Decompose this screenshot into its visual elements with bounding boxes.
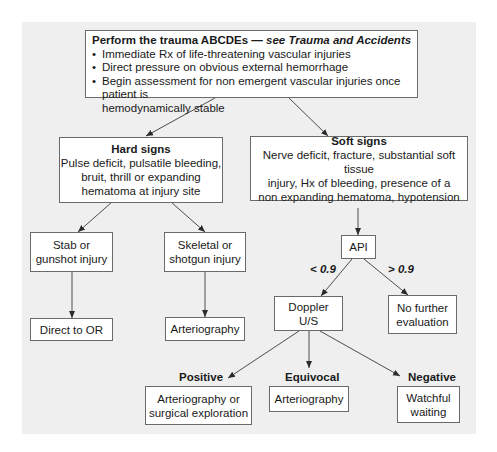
bullet-continuation: hemodynamically stable xyxy=(102,102,413,116)
negative-label: Negative xyxy=(408,371,456,383)
skeletal-line: shotgun injury xyxy=(169,252,241,266)
arteriography-text: Arteriography xyxy=(170,322,239,336)
stab-line: gunshot injury xyxy=(36,252,108,266)
stab-gunshot-box: Stab or gunshot injury xyxy=(30,232,113,272)
no-further-line: evaluation xyxy=(396,315,448,329)
hard-signs-title: Hard signs xyxy=(111,142,170,156)
arrow-doppler-to-negative xyxy=(320,331,400,376)
positive-label: Positive xyxy=(179,371,223,383)
doppler-line: U/S xyxy=(299,314,318,328)
bullet-item: Begin assessment for non emergent vascul… xyxy=(92,75,413,116)
api-box: API xyxy=(341,235,376,259)
hard-signs-line: bruit, thrill or expanding xyxy=(81,170,201,184)
soft-signs-line: Nerve deficit, fracture, substantial sof… xyxy=(251,148,467,176)
bullet-item: Direct pressure on obvious external hemo… xyxy=(92,61,413,75)
top-title-text: Perform the trauma ABCDEs — xyxy=(92,34,266,46)
equivocal-label: Equivocal xyxy=(285,371,339,383)
stab-line: Stab or xyxy=(53,238,90,252)
skeletal-line: Skeletal or xyxy=(178,238,232,252)
equivocal-result-text: Arteriography xyxy=(274,392,343,406)
doppler-line: Doppler xyxy=(288,300,328,314)
api-low-label: < 0.9 xyxy=(310,263,336,275)
soft-signs-line: injury, Hx of bleeding, presence of a xyxy=(268,176,451,190)
positive-result-line: surgical exploration xyxy=(149,406,248,420)
api-text: API xyxy=(349,240,368,254)
hard-signs-line: Pulse deficit, pulsatile bleeding, xyxy=(61,156,221,170)
hard-signs-box: Hard signs Pulse deficit, pulsatile blee… xyxy=(59,137,223,203)
direct-to-or-text: Direct to OR xyxy=(40,323,103,337)
no-further-line: No further xyxy=(397,301,448,315)
skeletal-shotgun-box: Skeletal or shotgun injury xyxy=(164,232,246,272)
arteriography-box-hard: Arteriography xyxy=(165,317,245,341)
arrow-hard-to-skeletal xyxy=(171,202,205,232)
top-bullet-list: Immediate Rx of life-threatening vascula… xyxy=(92,48,413,116)
positive-result-line: Arteriography or xyxy=(157,392,239,406)
no-further-evaluation-box: No further evaluation xyxy=(388,295,457,334)
direct-to-or-box: Direct to OR xyxy=(30,318,113,341)
doppler-us-box: Doppler U/S xyxy=(274,296,343,331)
bullet-text: Begin assessment for non emergent vascul… xyxy=(102,75,401,101)
top-title: Perform the trauma ABCDEs — see Trauma a… xyxy=(92,34,413,48)
top-instructions-box: Perform the trauma ABCDEs — see Trauma a… xyxy=(85,30,418,98)
arrow-hard-to-stab xyxy=(78,202,112,232)
positive-result-box: Arteriography or surgical exploration xyxy=(145,386,252,425)
soft-signs-line: non expanding hematoma, hypotension xyxy=(258,190,459,204)
negative-result-line: waiting xyxy=(411,405,447,419)
top-title-reference: see Trauma and Accidents xyxy=(266,34,411,46)
hard-signs-line: hematoma at injury site xyxy=(82,184,201,198)
negative-result-box: Watchful waiting xyxy=(397,386,460,423)
soft-signs-box: Soft signs Nerve deficit, fracture, subs… xyxy=(250,136,468,201)
negative-result-line: Watchful xyxy=(406,391,450,405)
equivocal-result-box: Arteriography xyxy=(269,386,349,412)
api-high-label: > 0.9 xyxy=(388,263,414,275)
soft-signs-title: Soft signs xyxy=(331,134,387,148)
bullet-item: Immediate Rx of life-threatening vascula… xyxy=(92,48,413,62)
